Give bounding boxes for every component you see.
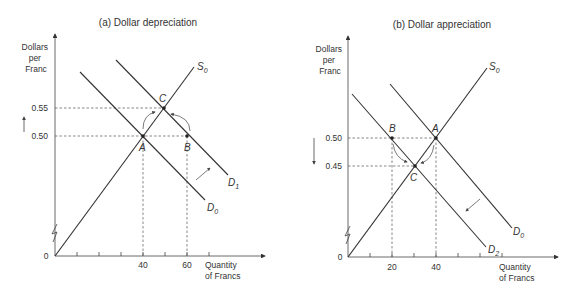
chart-dollar-depreciation: (a) Dollar depreciation Dollars per Fran… <box>22 17 265 281</box>
y-tick-055: 0.55 <box>31 103 48 113</box>
x-tick-40: 40 <box>431 262 441 272</box>
y-axis-label: Dollars per Franc <box>316 44 345 76</box>
chart-title: (b) Dollar appreciation <box>393 19 491 30</box>
demand-curve-d1 <box>116 60 228 175</box>
label-c: C <box>410 172 418 183</box>
y-tick-050: 0.50 <box>325 133 342 143</box>
arrow-b-to-c-icon <box>171 114 190 131</box>
label-c: C <box>159 93 167 104</box>
axis-break-icon <box>52 224 57 242</box>
point-a <box>141 134 145 138</box>
label-s0: S0 <box>489 61 500 74</box>
label-d1: D1 <box>228 177 239 190</box>
point-c <box>162 106 166 110</box>
label-a: A <box>138 142 146 153</box>
label-d2: D2 <box>488 244 499 257</box>
x-tick-20: 20 <box>387 262 397 272</box>
x-tick-40: 40 <box>138 260 148 270</box>
point-b <box>390 136 394 140</box>
y-axis-label: Dollars per Franc <box>22 42 51 74</box>
origin-label: 0 <box>338 252 343 262</box>
label-a: A <box>431 123 439 134</box>
supply-curve-s0 <box>348 68 487 257</box>
label-d0: D0 <box>513 226 524 239</box>
point-a <box>434 136 438 140</box>
chart-dollar-appreciation: (b) Dollar appreciation Dollars per Fran… <box>314 19 558 283</box>
demand-shift-right-arrow-icon <box>196 168 210 180</box>
demand-shift-left-arrow-icon <box>466 199 480 211</box>
y-tick-050: 0.50 <box>31 131 48 141</box>
point-c <box>413 164 417 168</box>
label-b: B <box>389 123 396 134</box>
label-d0: D0 <box>207 202 218 215</box>
x-tick-60: 60 <box>182 260 192 270</box>
supply-curve-s0 <box>55 67 194 256</box>
x-axis-label: Quantity of Francs <box>499 262 534 283</box>
x-axis-label: Quantity of Francs <box>205 260 240 281</box>
axis-break-icon <box>345 226 350 244</box>
arrow-a-to-c-icon <box>421 145 434 163</box>
label-s0: S0 <box>197 61 208 74</box>
origin-label: 0 <box>44 251 49 261</box>
point-b <box>185 134 189 138</box>
arrow-a-to-c-icon <box>143 112 155 129</box>
label-b: B <box>184 142 191 153</box>
chart-title: (a) Dollar depreciation <box>99 17 197 28</box>
y-tick-045: 0.45 <box>325 161 342 171</box>
arrow-b-to-c-icon <box>393 144 407 162</box>
